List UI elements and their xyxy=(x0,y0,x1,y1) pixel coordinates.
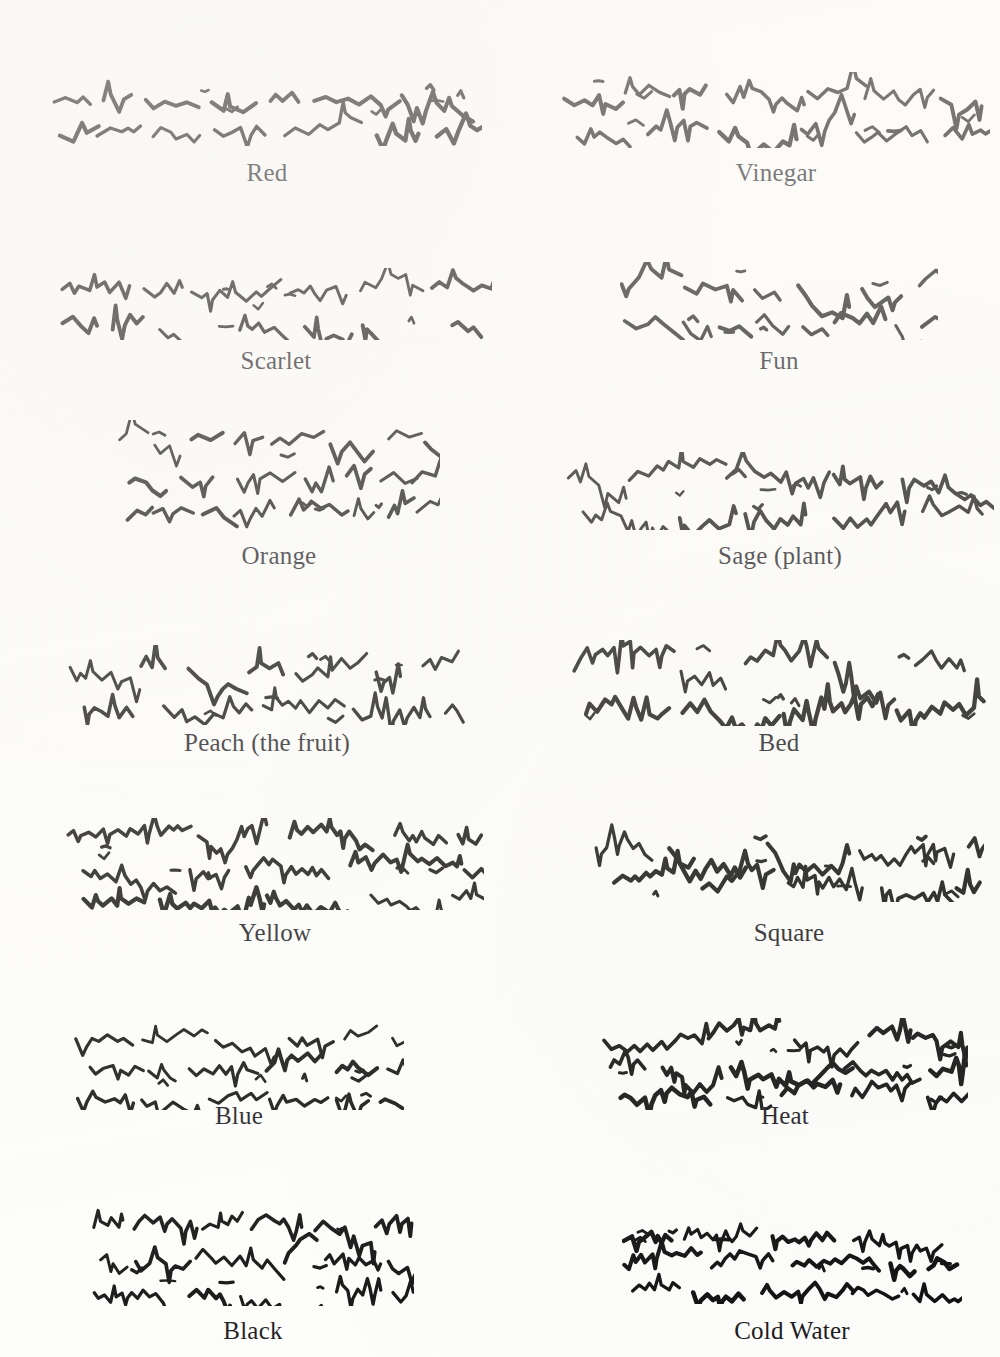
sample-label-sage-plant: Sage (plant) xyxy=(566,543,994,568)
sample-label-square: Square xyxy=(594,920,984,945)
script-sample-vinegar xyxy=(562,72,990,148)
sample-label-peach-the-fruit: Peach (the fruit) xyxy=(68,730,466,755)
script-sample-fun xyxy=(620,262,938,340)
script-sample-red xyxy=(52,78,482,146)
sample-label-fun: Fun xyxy=(620,348,938,373)
script-sample-bed xyxy=(572,640,986,726)
sample-label-vinegar: Vinegar xyxy=(562,160,990,185)
script-sample-blue xyxy=(74,1022,404,1110)
sample-label-bed: Bed xyxy=(572,730,986,755)
script-sample-black xyxy=(92,1208,414,1306)
sample-label-black: Black xyxy=(92,1318,414,1343)
sample-label-blue: Blue xyxy=(74,1103,404,1128)
sample-label-scarlet: Scarlet xyxy=(60,348,492,373)
sample-label-red: Red xyxy=(52,160,482,185)
scanned-page: RedVinegarScarletFunOrangeSage (plant)Pe… xyxy=(0,0,1000,1357)
sample-grid: RedVinegarScarletFunOrangeSage (plant)Pe… xyxy=(0,0,1000,1357)
script-sample-yellow xyxy=(66,818,484,910)
sample-label-orange: Orange xyxy=(118,543,440,568)
script-sample-square xyxy=(594,822,984,902)
sample-label-yellow: Yellow xyxy=(66,920,484,945)
script-sample-orange xyxy=(118,420,440,530)
script-sample-heat xyxy=(602,1018,968,1110)
script-sample-scarlet xyxy=(60,268,492,340)
script-sample-peach-the-fruit xyxy=(68,645,466,725)
script-sample-sage-plant xyxy=(566,452,994,530)
sample-label-heat: Heat xyxy=(602,1103,968,1128)
sample-label-cold-water: Cold Water xyxy=(622,1318,962,1343)
script-sample-cold-water xyxy=(622,1222,962,1304)
